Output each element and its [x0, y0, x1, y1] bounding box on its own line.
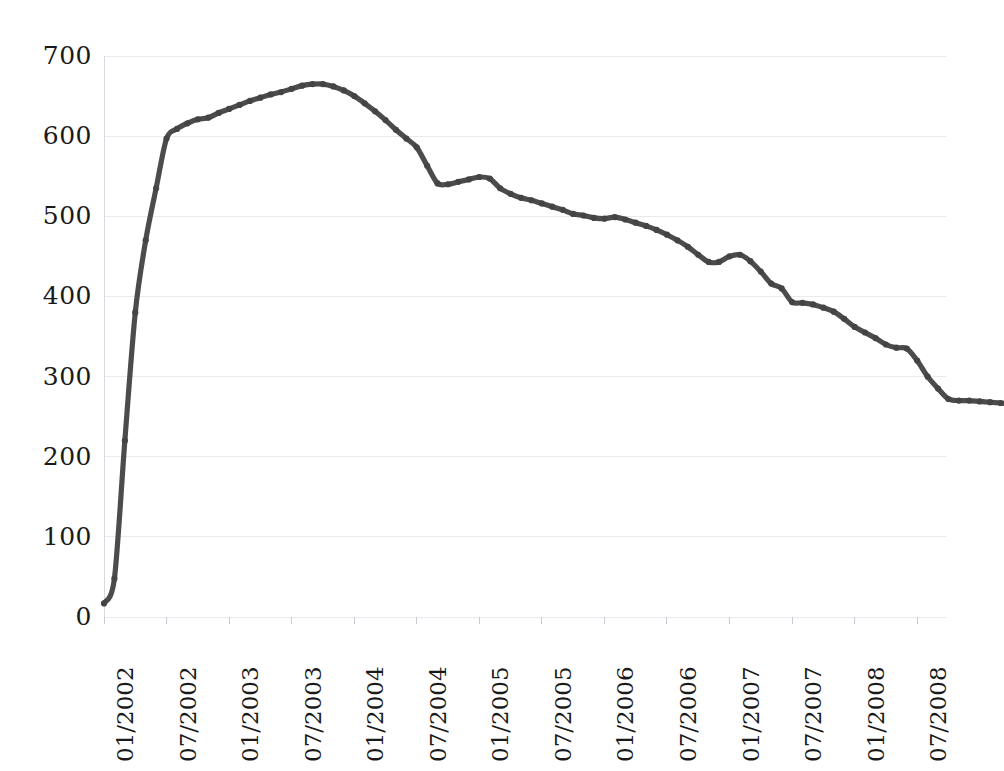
- x-tick-label: 07/2005: [551, 632, 575, 762]
- x-tick-label: 07/2007: [801, 632, 825, 762]
- x-tick-label: 07/2003: [301, 632, 325, 762]
- x-tick-label: 01/2005: [488, 632, 512, 762]
- x-tick-label: 07/2008: [926, 632, 950, 762]
- x-tick-label: 07/2006: [676, 632, 700, 762]
- x-tick-label: 01/2003: [238, 632, 262, 762]
- x-axis-tick-labels: 01/200207/200201/200307/200301/200407/20…: [0, 0, 1004, 771]
- x-tick-label: 01/2008: [864, 632, 888, 762]
- x-tick-label: 01/2004: [363, 632, 387, 762]
- chart-figure: 7006005004003002001000 01/200207/200201/…: [0, 0, 1004, 771]
- x-tick-label: 01/2007: [739, 632, 763, 762]
- x-tick-label: 01/2006: [613, 632, 637, 762]
- x-tick-label: 07/2004: [426, 632, 450, 762]
- x-tick-label: 07/2002: [176, 632, 200, 762]
- x-tick-label: 01/2002: [113, 632, 137, 762]
